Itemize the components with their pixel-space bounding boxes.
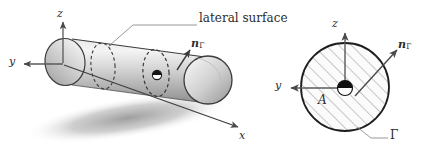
axis-label-z-left: z bbox=[57, 8, 63, 19]
area-label: A bbox=[318, 94, 327, 106]
axis-label-y-right: y bbox=[275, 80, 281, 91]
lateral-surface-label: lateral surface bbox=[199, 12, 288, 24]
normal-vector-subscript-left: Γ bbox=[199, 41, 204, 50]
normal-vector-subscript-right: Γ bbox=[406, 42, 411, 51]
axis-label-x-left: x bbox=[239, 130, 245, 141]
boundary-label: Γ bbox=[390, 129, 398, 141]
normal-vector-label-left: nΓ bbox=[191, 38, 204, 50]
lateral-surface-leader-line bbox=[109, 25, 197, 46]
cross-section-group bbox=[291, 33, 397, 138]
origin-marker-cylinder bbox=[152, 70, 161, 79]
cylinder-3d-group bbox=[22, 22, 238, 154]
normal-vector-symbol-left: n bbox=[191, 37, 199, 50]
figure-canvas: z y x lateral surface nΓ z y nΓ A Γ bbox=[0, 0, 429, 160]
axis-label-z-right: z bbox=[332, 18, 338, 29]
normal-vector-label-right: nΓ bbox=[398, 39, 411, 51]
axis-label-y-left: y bbox=[9, 56, 15, 67]
normal-vector-symbol-right: n bbox=[398, 38, 406, 51]
origin-marker-cross-section bbox=[338, 81, 353, 96]
cylinder-right-cap bbox=[184, 56, 232, 104]
